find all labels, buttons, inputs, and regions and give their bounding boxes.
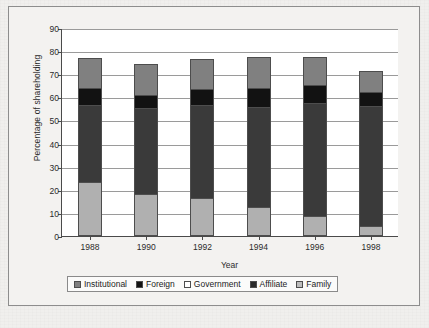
y-tick-label: 60 (50, 93, 59, 103)
chart-legend: InstitutionalForeignGovernmentAffiliateF… (67, 276, 338, 292)
x-tick-label: 1998 (361, 242, 380, 252)
bar-group (174, 29, 230, 236)
bar-group (343, 29, 399, 236)
bar-segment-affiliate[interactable] (135, 109, 157, 194)
legend-item-affiliate[interactable]: Affiliate (250, 279, 288, 289)
stacked-bar[interactable] (303, 57, 327, 236)
bar-group (118, 29, 174, 236)
stacked-bar[interactable] (78, 58, 102, 236)
legend-swatch-institutional-icon (74, 281, 81, 288)
bar-segment-institutional[interactable] (248, 58, 270, 89)
bar-segment-family[interactable] (191, 199, 213, 235)
chart-figure: Percentage of shareholding 0102030405060… (8, 6, 420, 306)
x-tick-label: 1988 (81, 242, 100, 252)
bar-group (231, 29, 287, 236)
bar-segment-affiliate[interactable] (304, 104, 326, 217)
legend-item-foreign[interactable]: Foreign (136, 279, 175, 289)
bar-segment-affiliate[interactable] (248, 108, 270, 208)
bar-series-group (62, 29, 398, 236)
x-tick-label: 1992 (193, 242, 212, 252)
bar-segment-affiliate[interactable] (79, 106, 101, 183)
y-tick-label: 10 (50, 209, 59, 219)
y-tick-label: 0 (54, 232, 59, 242)
x-tick-mark (146, 236, 147, 240)
bar-segment-foreign[interactable] (79, 89, 101, 106)
bar-segment-foreign[interactable] (248, 89, 270, 108)
bar-segment-foreign[interactable] (360, 93, 382, 107)
x-tick-mark (202, 236, 203, 240)
legend-swatch-foreign-icon (136, 281, 143, 288)
x-axis-title: Year (61, 260, 398, 270)
bar-segment-affiliate[interactable] (191, 106, 213, 199)
x-tick-label: 1996 (305, 242, 324, 252)
legend-swatch-family-icon (296, 281, 303, 288)
y-tick-label: 40 (50, 140, 59, 150)
bar-segment-affiliate[interactable] (360, 107, 382, 227)
legend-label: Institutional (84, 279, 127, 289)
y-tick-label: 90 (50, 24, 59, 34)
bar-segment-family[interactable] (135, 195, 157, 235)
legend-label: Family (306, 279, 331, 289)
bar-group (287, 29, 343, 236)
bar-segment-institutional[interactable] (304, 58, 326, 86)
bar-segment-foreign[interactable] (304, 86, 326, 104)
legend-item-institutional[interactable]: Institutional (74, 279, 127, 289)
bar-segment-foreign[interactable] (135, 96, 157, 109)
bar-segment-foreign[interactable] (191, 90, 213, 106)
bar-segment-family[interactable] (360, 227, 382, 235)
y-tick-label: 80 (50, 47, 59, 57)
bar-segment-institutional[interactable] (79, 59, 101, 89)
chart-page: Percentage of shareholding 0102030405060… (0, 0, 429, 328)
x-tick-mark (315, 236, 316, 240)
stacked-bar[interactable] (359, 71, 383, 236)
x-tick-mark (371, 236, 372, 240)
y-tick-label: 30 (50, 163, 59, 173)
bar-segment-institutional[interactable] (191, 60, 213, 90)
plot-area: 0102030405060708090 19881990199219941996… (61, 29, 398, 237)
stacked-bar[interactable] (247, 57, 271, 236)
x-tick-label: 1990 (137, 242, 156, 252)
bar-segment-family[interactable] (304, 217, 326, 235)
bar-segment-institutional[interactable] (135, 65, 157, 96)
y-tick-label: 50 (50, 116, 59, 126)
bar-segment-institutional[interactable] (360, 72, 382, 93)
bar-group (62, 29, 118, 236)
x-tick-mark (90, 236, 91, 240)
x-tick-mark (259, 236, 260, 240)
stacked-bar[interactable] (134, 64, 158, 236)
x-tick-label: 1994 (249, 242, 268, 252)
legend-swatch-affiliate-icon (250, 281, 257, 288)
bar-segment-family[interactable] (79, 183, 101, 235)
legend-label: Foreign (146, 279, 175, 289)
y-tick-label: 70 (50, 70, 59, 80)
bar-segment-family[interactable] (248, 208, 270, 235)
y-tick-label: 20 (50, 186, 59, 196)
legend-item-government[interactable]: Government (184, 279, 241, 289)
stacked-bar[interactable] (190, 59, 214, 236)
legend-swatch-government-icon (184, 281, 191, 288)
legend-label: Affiliate (260, 279, 288, 289)
y-axis-title: Percentage of shareholding (32, 33, 42, 183)
legend-label: Government (194, 279, 241, 289)
legend-item-family[interactable]: Family (296, 279, 331, 289)
